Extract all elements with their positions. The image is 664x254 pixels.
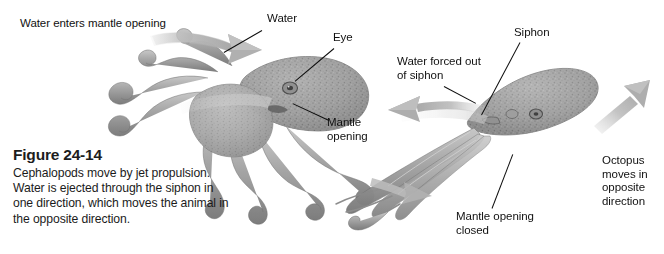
- label-mantle-opening: Mantle opening: [327, 116, 368, 143]
- label-mantle-opening-closed: Mantle opening closed: [456, 210, 534, 237]
- figure-number: Figure 24-14: [13, 146, 313, 164]
- figure-caption-text: Cephalopods move by jet propulsion. Wate…: [13, 166, 313, 227]
- mantle-opening-slit: [268, 105, 288, 113]
- leader-line-mantle-opening-closed: [492, 154, 514, 209]
- motion-arrow: [594, 80, 650, 134]
- leader-line-water-forced-out: [444, 86, 476, 104]
- body-thrust-arrow: [370, 178, 432, 204]
- leader-line-eye: [295, 48, 335, 82]
- label-octopus-moves-opposite-direction: Octopus moves in opposite direction: [602, 154, 648, 208]
- label-siphon: Siphon: [514, 26, 550, 40]
- label-water-forced-out-of-siphon: Water forced out of siphon: [397, 55, 481, 82]
- label-water-enters-mantle-opening: Water enters mantle opening: [20, 17, 166, 31]
- left-octopus-eye: [283, 82, 298, 94]
- right-octopus-eye: [530, 109, 543, 119]
- label-water: Water: [267, 12, 297, 26]
- label-eye: Eye: [333, 31, 353, 45]
- intake-arrow: [150, 32, 262, 64]
- figure-24-14: Water enters mantle opening Water Eye Ma…: [0, 0, 664, 254]
- leader-line-siphon: [481, 42, 520, 115]
- figure-caption-block: Figure 24-14 Cephalopods move by jet pro…: [13, 146, 313, 227]
- leader-line-mantle-opening: [293, 103, 330, 121]
- siphon-structure: [482, 110, 518, 125]
- leader-line-water: [224, 30, 263, 53]
- right-octopus: [336, 68, 598, 230]
